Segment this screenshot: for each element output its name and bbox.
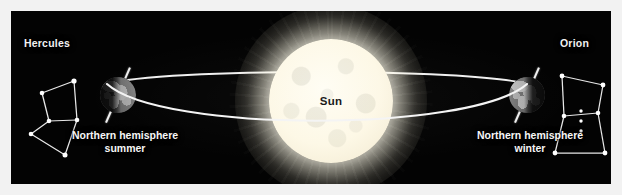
diagram-screenshot: Sun: [0, 0, 622, 195]
hercules-label: Hercules: [24, 37, 70, 50]
orbit-near-arc: [107, 84, 527, 121]
space-diagram-panel: Sun: [11, 11, 611, 184]
orbit-near-arc-layer: [11, 11, 611, 184]
northern-summer-label: Northern hemisphere summer: [70, 129, 180, 155]
orion-label: Orion: [560, 37, 589, 50]
northern-winter-label: Northern hemisphere winter: [475, 129, 585, 155]
